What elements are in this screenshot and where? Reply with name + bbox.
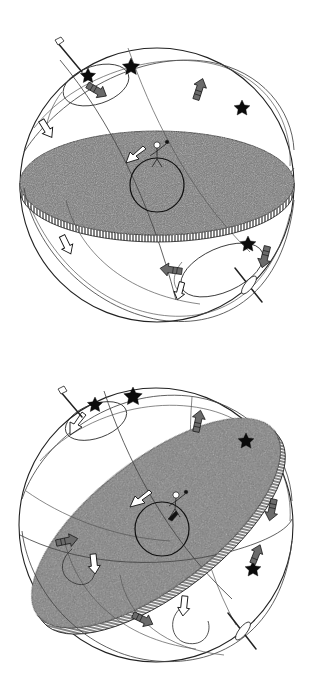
- five-pointed-star: [87, 397, 102, 412]
- dark-motion-arrow: [159, 262, 183, 278]
- loop-tail: [46, 92, 62, 128]
- axis-pin-upper-left: [58, 386, 82, 417]
- panel-sphere-tilted-disk: [0, 349, 313, 697]
- loop-ellipse: [58, 56, 134, 113]
- shaded-disk-plane: [20, 48, 294, 300]
- dark-motion-arrow: [247, 543, 266, 566]
- axis-pin-lower-right: [235, 268, 262, 302]
- shaded-disk-plane: [0, 381, 313, 671]
- dark-motion-arrow: [190, 77, 209, 102]
- diagram-2-svg: [0, 349, 313, 697]
- loop-ellipse: [173, 607, 209, 644]
- disk-surface: [0, 381, 313, 665]
- white-orbit-arrow: [36, 117, 57, 140]
- white-orbit-arrow: [177, 595, 191, 616]
- orbit-loop-lower-right: [173, 607, 209, 644]
- five-pointed-star: [234, 100, 250, 115]
- orbit-loop-upper-left: [46, 56, 134, 128]
- diagram-1-svg: [0, 0, 313, 349]
- loop-ellipse: [173, 232, 271, 308]
- axis-pin-lower-right: [228, 613, 256, 649]
- panel-sphere-horizontal-disk: [0, 0, 313, 349]
- five-pointed-star: [240, 236, 256, 251]
- orbit-loop-lower-right: [173, 232, 271, 308]
- figure-stack: [0, 0, 313, 697]
- white-orbit-arrow: [57, 233, 77, 256]
- axis-pin-upper-left: [55, 37, 82, 72]
- dark-motion-arrow: [256, 245, 274, 269]
